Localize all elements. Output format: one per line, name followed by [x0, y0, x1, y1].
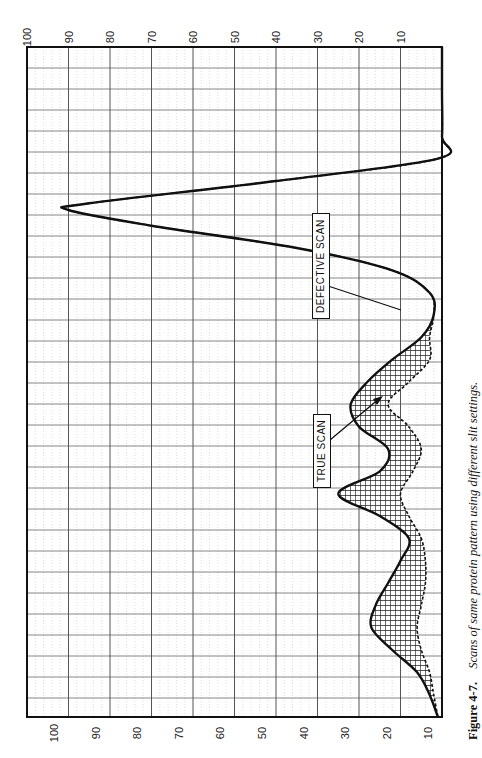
chart-plot — [0, 0, 482, 758]
figure-caption-text: Scans of same protein pattern using diff… — [466, 382, 480, 669]
tick-label: 50 — [256, 721, 268, 745]
tick-label: 100 — [48, 721, 60, 745]
figure: 100908070605040302010 100908070605040302… — [0, 0, 482, 758]
tick-label: 10 — [395, 25, 407, 49]
difference-shading — [61, 47, 451, 717]
tick-label: 80 — [131, 721, 143, 745]
tick-label: 100 — [21, 25, 33, 49]
defective-scan-pointer — [325, 285, 401, 310]
defective-scan-label: DEFECTIVE SCAN — [312, 213, 330, 319]
tick-label: 70 — [173, 721, 185, 745]
defective-scan-label-text: DEFECTIVE SCAN — [315, 219, 326, 313]
tick-label: 20 — [353, 25, 365, 49]
figure-caption: Figure 4-7. Scans of same protein patter… — [466, 382, 481, 740]
tick-label: 90 — [90, 721, 102, 745]
tick-label: 40 — [270, 25, 282, 49]
figure-number: Figure 4-7. — [466, 682, 480, 740]
tick-label: 10 — [422, 721, 434, 745]
tick-label: 60 — [187, 25, 199, 49]
tick-label: 20 — [381, 721, 393, 745]
true-scan-label-text: TRUE SCAN — [316, 420, 327, 482]
tick-label: 80 — [104, 25, 116, 49]
tick-label: 50 — [229, 25, 241, 49]
tick-label: 90 — [63, 25, 75, 49]
tick-label: 30 — [312, 25, 324, 49]
true-scan-label: TRUE SCAN — [313, 414, 331, 488]
tick-label: 40 — [298, 721, 310, 745]
tick-label: 30 — [339, 721, 351, 745]
tick-label: 70 — [146, 25, 158, 49]
tick-label: 60 — [214, 721, 226, 745]
